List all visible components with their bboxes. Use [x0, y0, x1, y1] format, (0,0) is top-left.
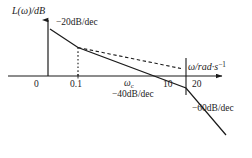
- tick-label-10: 10: [163, 80, 173, 90]
- annotation-slope-60: −60dB/dec: [192, 104, 234, 114]
- tick-label-20: 20: [192, 80, 202, 90]
- omega-c-subscript: c: [131, 82, 134, 89]
- annotation-slope-20: −20dB/dec: [56, 18, 98, 28]
- bode-plot-figure: L(ω)/dB ω/rad·s−1 0 0.1 ωc 10 20 −20dB/d…: [0, 0, 252, 158]
- tick-label-omega-c: ωc: [124, 79, 134, 90]
- annotation-slope-40: −40dB/dec: [112, 90, 154, 100]
- y-axis-label: L(ω)/dB: [12, 6, 45, 16]
- tick-label-0p1: 0.1: [70, 80, 82, 90]
- x-axis-label-exponent: −1: [218, 61, 226, 69]
- x-axis-label-text: ω/rad·s: [188, 61, 218, 72]
- slope-20-extension-dashed: [78, 48, 181, 69]
- y-axis-label-text: L(ω)/dB: [12, 5, 45, 16]
- tick-label-origin: 0: [34, 80, 39, 90]
- omega-c-symbol: ω: [124, 78, 131, 88]
- x-axis-label: ω/rad·s−1: [188, 62, 226, 72]
